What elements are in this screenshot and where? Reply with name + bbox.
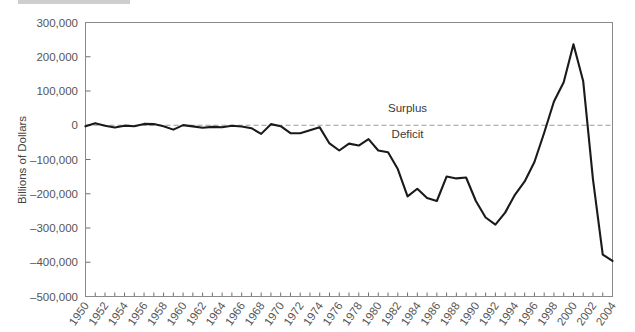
x-tick-label: 1978: [340, 300, 365, 328]
x-tick-label: 2000: [555, 300, 580, 328]
plot-frame: [86, 23, 613, 297]
y-axis-tick-marks: [86, 23, 91, 297]
x-tick-label: 1964: [203, 299, 228, 327]
y-axis-title-group: Billions of Dollars: [16, 116, 28, 204]
x-tick-label: 2002: [574, 300, 599, 328]
deficit-annotation: Deficit: [392, 128, 425, 140]
y-tick-label: –100,000: [30, 154, 78, 166]
y-tick-label: 300,000: [36, 17, 78, 29]
x-tick-label: 1960: [164, 300, 189, 328]
x-tick-label: 1976: [320, 300, 345, 328]
x-tick-label: 2004: [594, 299, 619, 327]
x-tick-label: 1952: [86, 300, 111, 328]
x-tick-label: 1996: [516, 300, 541, 328]
x-tick-label: 1966: [223, 300, 248, 328]
x-tick-label: 1968: [242, 300, 267, 328]
x-tick-label: 1954: [106, 299, 131, 327]
x-tick-label: 1990: [457, 300, 482, 328]
deficit-surplus-series: [86, 44, 613, 261]
x-tick-label: 1986: [418, 300, 443, 328]
x-tick-label: 1992: [477, 300, 502, 328]
x-axis-tick-marks: [86, 293, 613, 297]
x-axis-tick-labels: 1950195219541956195819601962196419661968…: [67, 299, 619, 327]
y-tick-label: 100,000: [36, 85, 78, 97]
figure-container: Billions of Dollars 300,000200,000100,00…: [0, 0, 635, 332]
x-tick-label: 1956: [125, 300, 150, 328]
x-tick-label: 1970: [262, 300, 287, 328]
x-tick-label: 1980: [359, 300, 384, 328]
deficit-surplus-line-chart: Billions of Dollars 300,000200,000100,00…: [0, 0, 635, 332]
x-tick-label: 1950: [67, 300, 92, 328]
y-tick-label: –200,000: [30, 188, 78, 200]
y-tick-label: –500,000: [30, 291, 78, 303]
x-tick-label: 1984: [398, 299, 423, 327]
y-tick-label: –400,000: [30, 256, 78, 268]
y-tick-label: 200,000: [36, 51, 78, 63]
x-tick-label: 1958: [145, 300, 170, 328]
x-tick-label: 1962: [184, 300, 209, 328]
y-tick-label: –300,000: [30, 222, 78, 234]
y-axis-title: Billions of Dollars: [16, 116, 28, 204]
x-tick-label: 1988: [437, 300, 462, 328]
x-tick-label: 1972: [281, 300, 306, 328]
x-tick-label: 1998: [535, 300, 560, 328]
y-axis-tick-labels: 300,000200,000100,0000–100,000–200,000–3…: [30, 17, 78, 303]
y-tick-label: 0: [72, 119, 78, 131]
x-tick-label: 1994: [496, 299, 521, 327]
x-tick-label: 1974: [301, 299, 326, 327]
x-tick-label: 1982: [379, 300, 404, 328]
surplus-annotation: Surplus: [388, 102, 427, 114]
